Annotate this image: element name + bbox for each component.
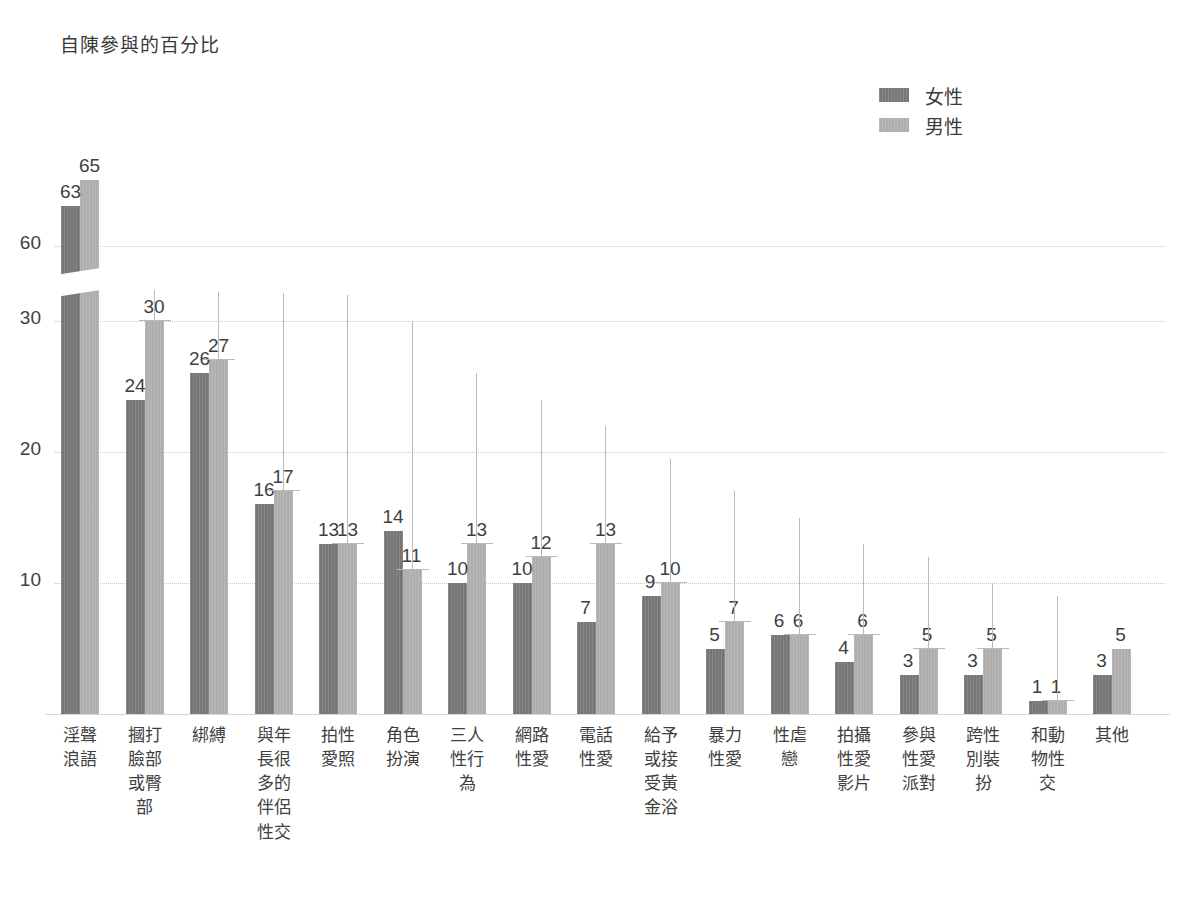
bar-male[interactable] — [145, 321, 164, 714]
bar-group[interactable]: 2627 — [190, 85, 228, 714]
bar-group[interactable]: 35 — [1093, 85, 1131, 714]
bar-male[interactable] — [661, 583, 680, 714]
error-bar-cap — [268, 490, 300, 491]
x-axis-category-label: 摑打臉部或臀部 — [114, 724, 176, 821]
category-label-line: 拍攝 — [823, 724, 885, 748]
bar-female[interactable] — [1093, 675, 1112, 714]
category-label-line: 性愛 — [694, 748, 756, 772]
bar-group[interactable]: 1313 — [319, 85, 357, 714]
plot-area: 1020306063652430262716171313141110131012… — [55, 85, 1165, 714]
bar-male[interactable] — [403, 570, 422, 714]
error-bar-line — [799, 518, 800, 636]
bar-male[interactable] — [209, 360, 228, 714]
x-axis-category-label: 網路性愛 — [501, 724, 563, 772]
bar-female[interactable] — [384, 531, 403, 714]
bar-female[interactable] — [771, 635, 790, 714]
bar-female[interactable] — [448, 583, 467, 714]
bar-female[interactable] — [319, 544, 338, 714]
bar-female[interactable] — [255, 504, 274, 714]
y-axis-tick-30: 30 — [20, 307, 41, 329]
bar-female[interactable] — [126, 400, 145, 714]
x-axis-baseline — [45, 714, 1170, 715]
category-label-line: 綁縛 — [178, 724, 240, 748]
category-label-line: 參與 — [888, 724, 950, 748]
error-bar-cap — [203, 359, 235, 360]
bar-group[interactable]: 66 — [771, 85, 809, 714]
category-label-line: 電話 — [565, 724, 627, 748]
bar-value-label-female: 10 — [447, 558, 466, 580]
bar-value-label-female: 3 — [963, 650, 982, 672]
category-label-line: 淫聲 — [49, 724, 111, 748]
bar-value-label-female: 14 — [383, 506, 402, 528]
bar-group[interactable]: 910 — [642, 85, 680, 714]
x-axis-category-label: 角色扮演 — [372, 724, 434, 772]
bar-group[interactable]: 1411 — [384, 85, 422, 714]
chart-axis-title: 自陳參與的百分比 — [60, 30, 220, 57]
bar-male[interactable] — [983, 649, 1002, 715]
category-label-line: 或臀 — [114, 772, 176, 796]
error-bar-line — [1057, 596, 1058, 701]
y-axis-tick-10: 10 — [20, 569, 41, 591]
category-label-line: 戀 — [759, 748, 821, 772]
x-axis-category-label: 暴力性愛 — [694, 724, 756, 772]
error-bar-cap — [397, 569, 429, 570]
bar-male[interactable] — [467, 544, 486, 714]
bar-male[interactable] — [1048, 701, 1067, 714]
error-bar-cap — [461, 543, 493, 544]
error-bar-cap — [1042, 700, 1074, 701]
bar-group[interactable]: 57 — [706, 85, 744, 714]
category-label-line: 跨性 — [952, 724, 1014, 748]
bar-female[interactable] — [513, 583, 532, 714]
category-label-line: 拍性 — [307, 724, 369, 748]
error-bar-cap — [848, 634, 880, 635]
bar-male[interactable] — [338, 544, 357, 714]
bar-female[interactable] — [190, 373, 209, 714]
bar-group[interactable]: 713 — [577, 85, 615, 714]
bar-group[interactable]: 6365 — [61, 85, 99, 714]
bar-value-label-female: 4 — [834, 637, 853, 659]
bar-male[interactable] — [1112, 649, 1131, 715]
bar-group[interactable]: 35 — [900, 85, 938, 714]
category-label-line: 角色 — [372, 724, 434, 748]
error-bar-line — [863, 544, 864, 636]
x-axis-category-label: 淫聲浪語 — [49, 724, 111, 772]
bar-group[interactable]: 2430 — [126, 85, 164, 714]
category-label-line: 性行 — [436, 748, 498, 772]
error-bar-line — [154, 290, 155, 321]
category-label-line: 扮 — [952, 772, 1014, 796]
bar-value-label-female: 10 — [512, 558, 531, 580]
bar-male[interactable] — [532, 557, 551, 714]
bar-female[interactable] — [900, 675, 919, 714]
bar-male[interactable] — [274, 491, 293, 714]
bar-group[interactable]: 35 — [964, 85, 1002, 714]
bar-female[interactable] — [1029, 701, 1048, 714]
bar-group[interactable]: 1617 — [255, 85, 293, 714]
bar-group[interactable]: 1013 — [448, 85, 486, 714]
bar-male[interactable] — [854, 635, 873, 714]
bar-group[interactable]: 46 — [835, 85, 873, 714]
bar-female[interactable] — [706, 649, 725, 715]
bar-group[interactable]: 1012 — [513, 85, 551, 714]
error-bar-cap — [977, 648, 1009, 649]
error-bar-line — [928, 557, 929, 649]
bar-female[interactable] — [964, 675, 983, 714]
category-label-line: 派對 — [888, 772, 950, 796]
error-bar-line — [605, 426, 606, 544]
error-bar-line — [218, 292, 219, 360]
bar-male[interactable] — [790, 635, 809, 714]
bar-male[interactable] — [919, 649, 938, 715]
bar-female[interactable] — [577, 622, 596, 714]
bar-value-label-female: 24 — [125, 375, 144, 397]
bar-female[interactable] — [642, 596, 661, 714]
bar-male[interactable] — [725, 622, 744, 714]
bar-value-label-female: 13 — [318, 519, 337, 541]
category-label-line: 扮演 — [372, 748, 434, 772]
bar-value-label-female: 63 — [60, 181, 79, 203]
category-label-line: 性交 — [243, 821, 305, 845]
bar-female[interactable] — [835, 662, 854, 714]
error-bar-cap — [332, 543, 364, 544]
y-axis-tick-20: 20 — [20, 438, 41, 460]
bar-male[interactable] — [80, 180, 99, 714]
bar-group[interactable]: 11 — [1029, 85, 1067, 714]
bar-male[interactable] — [596, 544, 615, 714]
